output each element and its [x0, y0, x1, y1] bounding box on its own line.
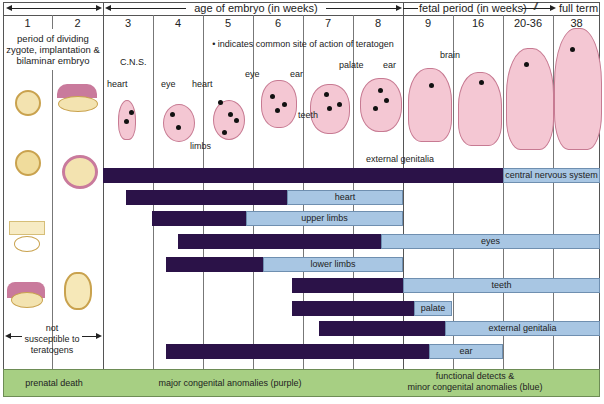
week-label: 7 — [303, 17, 353, 29]
teratogen-site-dot — [218, 100, 223, 105]
period-description: period of dividing zygote, implantation … — [6, 33, 100, 66]
week-label: 16 — [453, 17, 503, 29]
morula-illustration — [15, 150, 41, 176]
label-external-genitalia: external genitalia — [366, 154, 434, 164]
bar-palate-minor: palate — [414, 301, 452, 316]
teratogen-site-dot — [384, 98, 389, 103]
not-susceptible-note: not susceptible to teratogens — [22, 323, 82, 356]
embryo-week5-illustration — [213, 100, 245, 140]
teratogen-site-dot — [324, 92, 329, 97]
label-limbs: limbs — [190, 141, 211, 151]
week-label: 2 — [52, 17, 103, 29]
label-eye-week5: eye — [245, 69, 260, 79]
footer-prenatal-death: prenatal death — [5, 378, 103, 389]
label-cns: C.N.S. — [120, 57, 147, 67]
column-line-embryo-start — [103, 2, 104, 369]
teratogen-site-dot — [124, 119, 129, 124]
bar-lower-limbs-minor: lower limbs — [263, 257, 403, 272]
teratogen-site-dot — [378, 88, 383, 93]
label-eye-week4: eye — [161, 79, 176, 89]
label-heart-week3: heart — [107, 79, 128, 89]
teratogen-site-dot — [429, 83, 434, 88]
embryonic-disc-illustration — [64, 272, 92, 310]
week-label: 8 — [353, 17, 403, 29]
bar-upper-limbs-minor: upper limbs — [246, 211, 403, 226]
bar-teeth-minor: teeth — [403, 278, 600, 293]
teratogen-site-dot — [327, 106, 332, 111]
label-teeth: teeth — [298, 110, 318, 120]
bar-cns-major — [103, 168, 503, 183]
amniotic-cavity-illustration — [62, 155, 98, 189]
label-ear-week8: ear — [383, 60, 396, 70]
teratogen-site-dot — [337, 102, 342, 107]
bar-heart-minor: heart — [287, 190, 403, 205]
bar-external-genitalia-major — [319, 321, 445, 336]
teratogen-site-dot — [524, 62, 529, 67]
week-label: 1 — [3, 17, 52, 29]
week-label: 5 — [203, 17, 253, 29]
teratogen-site-dot — [170, 112, 175, 117]
label-palate: palate — [339, 60, 364, 70]
bar-eyes-minor: eyes — [381, 234, 600, 249]
full-term-header: full term — [557, 2, 600, 14]
two-cell-zygote-illustration — [15, 90, 41, 116]
teratogen-site-dot — [129, 110, 134, 115]
fetus-week20-36-illustration — [506, 48, 554, 150]
bar-heart-major — [126, 190, 287, 205]
week-label: 3 — [103, 17, 153, 29]
teratogen-site-dot — [570, 47, 575, 52]
left-span-arrow — [8, 8, 96, 9]
week-label: 4 — [153, 17, 203, 29]
embryo-age-header: age of embryo (in weeks) — [188, 2, 324, 14]
bar-lower-limbs-major — [166, 257, 263, 272]
teratogen-site-dot — [234, 118, 239, 123]
bar-external-genitalia-minor: external genitalia — [445, 321, 600, 336]
teratogen-site-dot — [479, 80, 484, 85]
fetus-week9-illustration — [408, 68, 452, 142]
bar-eyes-major — [178, 234, 381, 249]
week-label: 20-36 — [503, 17, 553, 29]
embryo-week4-illustration — [163, 104, 195, 142]
week-label: 6 — [253, 17, 303, 29]
teratogen-site-dot — [275, 108, 280, 113]
teratogen-site-dot — [222, 130, 227, 135]
embryo-week6-illustration — [261, 80, 297, 128]
bar-palate-major — [292, 301, 414, 316]
label-brain: brain — [440, 50, 460, 60]
bar-ear-minor: ear — [429, 344, 503, 359]
embryo-week8-illustration — [360, 78, 402, 132]
teratogen-site-dot — [282, 102, 287, 107]
teratogen-site-dot — [270, 94, 275, 99]
fetus-week38-illustration — [554, 28, 602, 150]
bar-upper-limbs-major — [152, 211, 246, 226]
bar-ear-major — [166, 344, 429, 359]
header-divider — [3, 15, 600, 16]
embryo-span-arrow-left — [108, 8, 186, 9]
bar-cns-minor: central nervous system — [503, 168, 600, 183]
teratogen-site-dot — [176, 125, 181, 130]
teratogen-site-dot — [228, 112, 233, 117]
fetal-period-header: fetal period (in weeks) — [419, 2, 521, 14]
teratogen-site-dot — [373, 106, 378, 111]
footer-minor-anomalies: minor congenital anomalies (blue) — [350, 382, 600, 393]
label-heart-week4: heart — [192, 79, 213, 89]
teratogen-note: • indicates common site of action of ter… — [205, 39, 401, 50]
blastocyst-illustration — [9, 221, 45, 235]
footer-major-anomalies: major congenital anomalies (purple) — [130, 378, 330, 389]
week-label: 9 — [403, 17, 453, 29]
footer-functional-defects: functional detects & — [350, 371, 600, 382]
label-ear-week6: ear — [290, 69, 303, 79]
bar-teeth-major — [292, 278, 403, 293]
scale-break-mark: // — [534, 1, 536, 12]
